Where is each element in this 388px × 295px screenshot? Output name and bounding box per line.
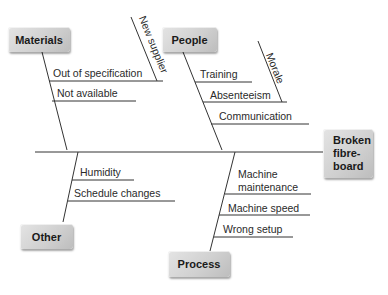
category-label: Other — [32, 231, 61, 243]
cause-label: Machine — [238, 168, 278, 180]
cause-label: Out of specification — [53, 67, 142, 79]
category-label: People — [171, 34, 207, 46]
category-box-process: Process — [168, 251, 230, 277]
cause-label: Humidity — [80, 166, 121, 178]
cause-label: maintenance — [238, 181, 298, 193]
effect-box: Broken fibre- board — [323, 129, 373, 178]
effect-label-line: Broken — [333, 134, 371, 147]
cause-label: Schedule changes — [74, 187, 160, 199]
cause-label: Training — [200, 68, 238, 80]
effect-label-line: board — [333, 160, 371, 173]
cause-label: Communication — [219, 110, 292, 122]
cause-label: Absenteeism — [210, 89, 271, 101]
category-box-other: Other — [20, 224, 73, 249]
cause-label: Wrong setup — [223, 223, 282, 235]
category-label: Materials — [15, 34, 63, 46]
cause-label: Machine speed — [228, 202, 299, 214]
effect-label-line: fibre- — [333, 147, 371, 160]
category-label: Process — [178, 258, 221, 270]
cause-label: Not available — [57, 87, 118, 99]
people-bone — [183, 52, 222, 150]
category-box-materials: Materials — [8, 27, 70, 52]
category-box-people: People — [162, 27, 217, 52]
